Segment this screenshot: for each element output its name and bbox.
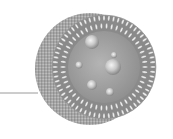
particle-sphere bbox=[76, 62, 83, 69]
particle-sphere bbox=[111, 52, 117, 58]
particle-sphere bbox=[85, 35, 99, 49]
particle-sphere bbox=[87, 80, 97, 90]
particle-sphere bbox=[105, 59, 121, 75]
liposome-diagram bbox=[0, 0, 173, 139]
particle-sphere bbox=[106, 88, 114, 96]
